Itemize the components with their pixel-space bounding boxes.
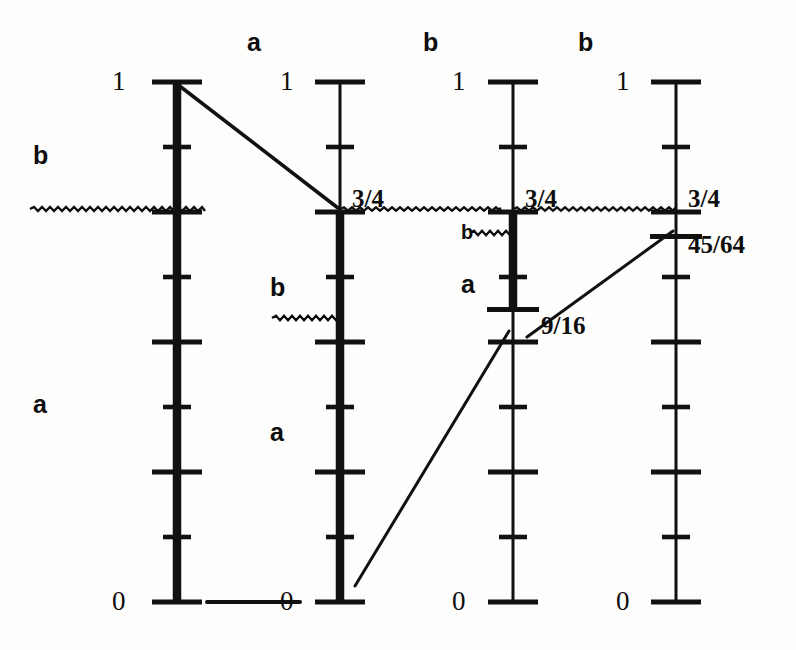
axis-3-group [487,82,539,602]
diagram-svg [0,0,796,650]
value-label-45-64: 45/64 [688,232,745,257]
value-label-0: 0 [452,588,466,615]
axes-group [152,82,702,602]
axis-4-group [650,82,702,602]
value-label-1: 1 [280,68,294,95]
value-label-3-4: 3/4 [525,186,557,211]
figure-canvas: abb bababa 10103/4103/49/16103/445/64 [0,0,796,650]
top-branch-label-1: a [247,30,261,55]
side-branch-label-4: a [270,420,284,445]
map-1-to-2 [177,84,338,208]
value-label-1: 1 [452,68,466,95]
connectors-group [177,84,673,602]
map-2-to-3 [355,331,509,586]
side-branch-label-2: a [33,392,47,417]
value-label-1: 1 [616,68,630,95]
side-branch-label-6: a [461,272,475,297]
value-label-9-16: 9/16 [541,313,585,338]
value-label-0: 0 [112,588,126,615]
side-branch-label-5: b [461,222,473,242]
value-label-1: 1 [112,68,126,95]
axis-2-group [315,82,365,602]
value-label-0: 0 [280,588,294,615]
value-label-3-4: 3/4 [688,186,720,211]
axis-1-group [152,82,202,602]
wavy-axis3-b [470,231,513,235]
top-branch-label-3: b [578,30,593,55]
value-label-3-4: 3/4 [352,186,384,211]
value-label-0: 0 [616,588,630,615]
wavy-mid-b [272,316,340,320]
side-branch-label-1: b [33,143,48,168]
wavy-lines-group [30,207,676,320]
side-branch-label-3: b [270,275,285,300]
top-branch-label-2: b [423,30,438,55]
